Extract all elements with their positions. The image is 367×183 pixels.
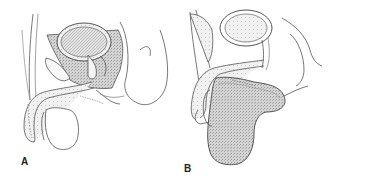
panel-label-a: A xyxy=(21,157,28,167)
anatomical-figure: A B xyxy=(0,0,367,183)
panel-label-b: B xyxy=(184,164,191,174)
panel-a-drawing xyxy=(22,14,168,150)
illustration-svg xyxy=(0,0,367,183)
panel-b-drawing xyxy=(190,10,322,165)
